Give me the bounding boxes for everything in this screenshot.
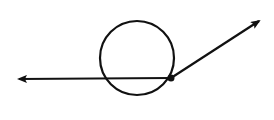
circle xyxy=(100,21,174,95)
geometry-diagram xyxy=(0,0,274,120)
vertex-point xyxy=(168,75,175,82)
ray-upper-right xyxy=(171,21,259,78)
ray-left xyxy=(19,78,171,79)
